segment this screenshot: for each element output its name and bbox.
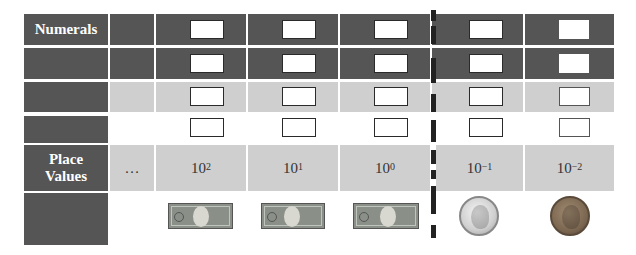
row3-label-cell: [24, 82, 108, 112]
row3-col-ones: [340, 82, 430, 112]
numeral-input-box[interactable]: [469, 20, 503, 39]
place-value-base: 10: [191, 160, 206, 177]
row3-col-hundredths: [525, 82, 614, 112]
numeral-input-box[interactable]: [190, 20, 224, 39]
row3-col-hundreds: [156, 82, 246, 112]
numeral-input-box[interactable]: [559, 20, 589, 39]
row4-col-ones: [340, 116, 430, 143]
row1-col-hundredths: [525, 14, 614, 45]
numeral-input-box[interactable]: [559, 54, 589, 73]
row2-col-ones: [340, 48, 430, 79]
numeral-input-box[interactable]: [469, 87, 503, 106]
numeral-input-box[interactable]: [469, 54, 503, 73]
numeral-input-box[interactable]: [282, 118, 316, 137]
penny-icon: [550, 196, 590, 236]
numeral-input-box[interactable]: [190, 87, 224, 106]
numeral-input-box[interactable]: [374, 20, 408, 39]
place-value-base: 10: [467, 160, 482, 177]
place-value-exponent: 0: [390, 161, 395, 172]
row2-ellipsis-cell: [110, 48, 154, 79]
place-value-base: 10: [557, 160, 572, 177]
row4-col-tens: [248, 116, 338, 143]
numeral-input-box[interactable]: [559, 118, 590, 137]
ten-dollar-bill-icon: [261, 203, 325, 229]
row4-col-tenths: [432, 116, 523, 143]
place-value-hundredths: 10−2: [525, 145, 614, 191]
row1-col-hundreds: [156, 14, 246, 45]
ellipsis-cell: …: [110, 145, 154, 191]
row2-col-tenths: [432, 48, 523, 79]
place-values-label: Place Values: [36, 151, 96, 185]
numerals-label: Numerals: [35, 21, 98, 38]
row2-col-hundredths: [525, 48, 614, 79]
row2-label-cell: [24, 48, 108, 79]
row3-col-tens: [248, 82, 338, 112]
numeral-input-box[interactable]: [559, 87, 590, 106]
numeral-input-box[interactable]: [374, 87, 408, 106]
money-label-cell: [24, 193, 108, 245]
place-value-tenths: 10−1: [436, 145, 523, 191]
hundred-dollar-bill-icon: [168, 203, 233, 229]
dime-icon: [459, 196, 499, 236]
place-values-label-cell: Place Values: [24, 145, 108, 191]
place-value-base: 10: [283, 160, 298, 177]
place-value-exponent: 2: [206, 161, 211, 172]
row4-col-hundredths: [525, 116, 614, 143]
one-dollar-bill-icon: [353, 203, 419, 229]
place-value-base: 10: [375, 160, 390, 177]
numeral-input-box[interactable]: [374, 118, 408, 137]
ellipsis: …: [125, 160, 140, 177]
place-value-hundreds: 102: [156, 145, 246, 191]
row3-ellipsis-cell: [110, 82, 154, 112]
numeral-input-box[interactable]: [374, 54, 408, 73]
numeral-input-box[interactable]: [190, 118, 224, 137]
numeral-input-box[interactable]: [190, 54, 224, 73]
numeral-input-box[interactable]: [469, 118, 503, 137]
row1-ellipsis-cell: [110, 14, 154, 45]
row1-col-tenths: [432, 14, 523, 45]
place-value-exponent: −2: [572, 161, 583, 172]
row1-col-tens: [248, 14, 338, 45]
row2-col-hundreds: [156, 48, 246, 79]
row3-col-tenths: [432, 82, 523, 112]
place-value-ones: 100: [340, 145, 430, 191]
row4-col-hundreds: [156, 116, 246, 143]
place-value-exponent: −1: [482, 161, 493, 172]
place-value-exponent: 1: [298, 161, 303, 172]
row4-label-cell: [24, 116, 108, 143]
numeral-input-box[interactable]: [282, 87, 316, 106]
numeral-input-box[interactable]: [282, 54, 316, 73]
place-value-tens: 101: [248, 145, 338, 191]
numeral-input-box[interactable]: [282, 20, 316, 39]
row1-col-ones: [340, 14, 430, 45]
row2-col-tens: [248, 48, 338, 79]
numerals-label-cell: Numerals: [24, 14, 108, 45]
